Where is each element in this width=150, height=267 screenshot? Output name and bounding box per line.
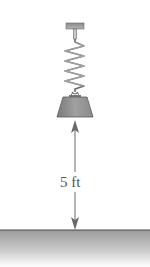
ceiling-mount bbox=[66, 23, 84, 39]
spring-icon bbox=[65, 39, 84, 97]
dimension-label: 5 ft bbox=[59, 174, 81, 190]
spring-weight-diagram bbox=[0, 0, 150, 267]
weight bbox=[57, 95, 93, 117]
ground bbox=[0, 230, 150, 267]
